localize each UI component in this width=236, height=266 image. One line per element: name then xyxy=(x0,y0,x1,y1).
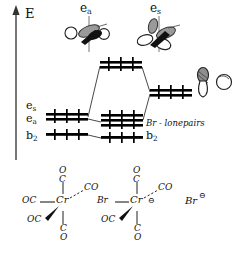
level-label-ea-sub: a xyxy=(33,117,37,126)
s2-left-Br: Br xyxy=(97,196,108,205)
level-antibonding-e xyxy=(100,57,142,71)
s2-lower-left-OC: OC xyxy=(101,215,115,224)
s1-top-C: C xyxy=(59,175,66,184)
s1-bottom-O: O xyxy=(60,233,67,242)
d-orbital-ea-icon xyxy=(65,16,109,52)
level-label-b2-left-sub: 2 xyxy=(33,134,38,143)
orbital-label-ea-sub: a xyxy=(87,7,92,16)
orbital-label-es: es xyxy=(150,2,161,16)
level-center-b2 xyxy=(101,132,143,143)
level-label-ea: ea xyxy=(26,113,37,125)
s-orbital-bromine-icon xyxy=(217,75,232,90)
d-orbital-es-icon xyxy=(136,16,180,52)
s3-Br: Br xyxy=(185,196,197,206)
level-label-b2-left-base: b xyxy=(26,129,33,142)
s2-upper-right-CO: CO xyxy=(158,183,172,192)
level-label-b2-center-base: b xyxy=(146,129,153,142)
s2-top-C: C xyxy=(133,175,140,184)
level-left-e xyxy=(46,109,88,123)
s1-center-Cr: Cr xyxy=(56,195,68,205)
s2-charge: ⊖ xyxy=(148,197,155,205)
orbital-label-ea: ea xyxy=(80,2,92,16)
orbital-label-es-sub: s xyxy=(157,7,161,16)
energy-axis xyxy=(12,5,19,160)
level-right-bonding xyxy=(150,85,192,99)
br-lonepairs-label: Br - lonepairs xyxy=(146,119,205,128)
p-orbital-bromine-icon xyxy=(198,68,209,98)
s3-charge: ⊖ xyxy=(199,192,206,200)
level-label-b2-center-sub: 2 xyxy=(153,134,158,143)
level-label-es-sub: s xyxy=(33,104,37,113)
level-left-b2 xyxy=(46,129,88,140)
correlation-lines xyxy=(88,66,150,138)
level-center-lonepairs xyxy=(101,110,143,129)
s2-center-Cr: Cr xyxy=(130,195,142,205)
level-label-es: es xyxy=(26,100,36,112)
s1-left-OC: OC xyxy=(22,196,36,205)
level-label-b2-center: b2 xyxy=(146,130,158,142)
mo-diagram-figure: E ea es es ea b2 Br - lonepairs b2 O C O… xyxy=(0,0,236,266)
s1-upper-right-CO: CO xyxy=(84,183,98,192)
level-label-b2-left: b2 xyxy=(26,130,38,142)
mo-levels xyxy=(46,57,192,143)
s1-lower-left-OC: OC xyxy=(27,215,41,224)
energy-axis-label: E xyxy=(25,7,35,20)
s2-bottom-O: O xyxy=(134,233,141,242)
